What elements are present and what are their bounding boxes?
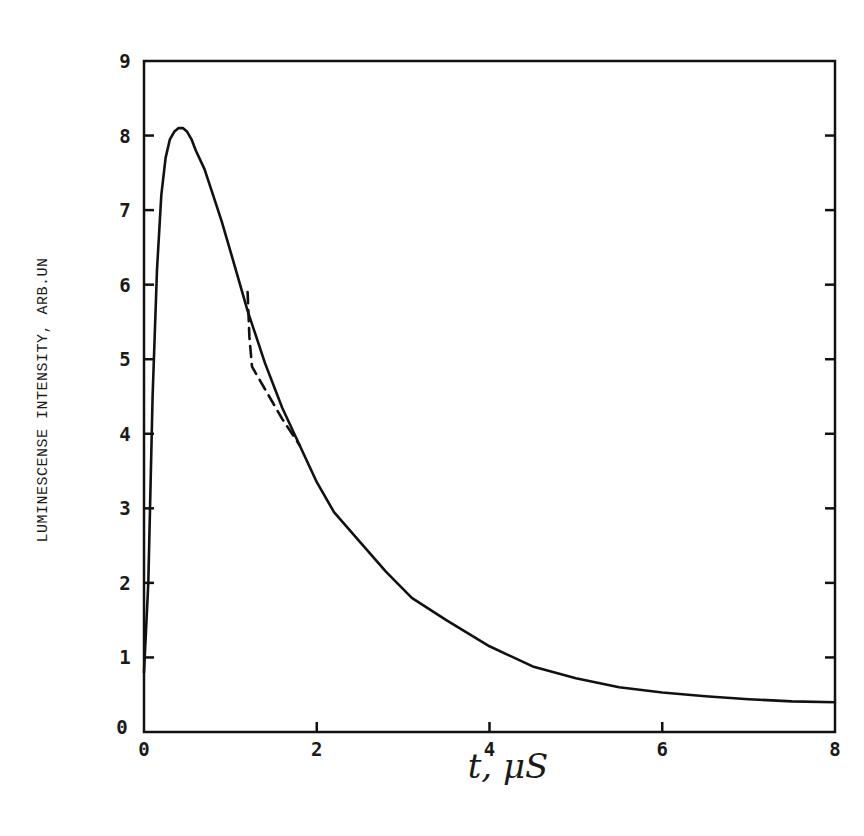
x-tick-label: 0	[138, 738, 149, 760]
y-tick-label: 1	[119, 646, 130, 668]
y-axis-ticks: 0123456789	[116, 50, 835, 738]
series-dashed-line	[248, 292, 300, 445]
y-tick-label: 9	[119, 50, 130, 72]
x-tick-label: 8	[829, 738, 840, 760]
y-tick-label: 2	[119, 572, 130, 594]
y-tick-label: 7	[119, 199, 130, 221]
y-tick-label: 5	[119, 348, 130, 370]
series-layer	[144, 128, 835, 702]
plot-frame	[144, 61, 835, 732]
y-tick-label: 8	[119, 125, 130, 147]
y-tick-label: 0	[116, 716, 127, 738]
chart: 0123456789 02468 LUMINESCENSE INTENSITY,…	[0, 0, 864, 836]
y-tick-label: 4	[119, 423, 130, 445]
y-tick-label: 3	[119, 497, 130, 519]
y-axis-label: LUMINESCENSE INTENSITY, ARB.UN	[35, 257, 52, 542]
x-tick-label: 6	[657, 738, 668, 760]
x-tick-label: 2	[311, 738, 322, 760]
series-solid-line	[144, 128, 835, 702]
x-axis-label: t, μS	[468, 746, 549, 786]
y-tick-label: 6	[119, 274, 130, 296]
